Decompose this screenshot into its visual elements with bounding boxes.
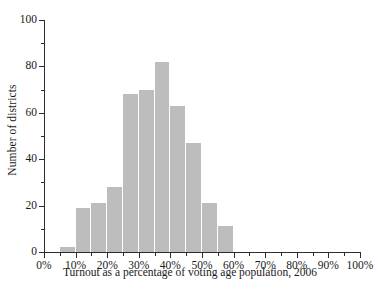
x-tick-minor <box>344 252 345 256</box>
y-tick-minor <box>41 90 45 91</box>
x-tick-major <box>360 252 361 258</box>
histogram-bar <box>202 203 218 252</box>
histogram-bar <box>123 94 139 252</box>
histogram-bar <box>91 203 107 252</box>
histogram-bar <box>139 90 155 252</box>
y-tick-major <box>39 20 45 21</box>
histogram-figure: Number of districts 020406080100 0%10%20… <box>0 0 380 290</box>
y-tick-label: 20 <box>26 200 38 212</box>
x-tick-minor <box>218 252 219 256</box>
x-tick-major <box>107 252 108 258</box>
histogram-bar <box>107 187 123 252</box>
x-tick-major <box>234 252 235 258</box>
y-tick-minor <box>41 182 45 183</box>
x-tick-minor <box>281 252 282 256</box>
x-tick-minor <box>186 252 187 256</box>
histogram-bar <box>76 208 92 252</box>
y-tick-label: 60 <box>26 107 38 119</box>
histogram-bar <box>218 226 234 252</box>
histogram-bar <box>186 143 202 252</box>
x-tick-major <box>297 252 298 258</box>
y-tick-major <box>39 159 45 160</box>
x-tick-major <box>328 252 329 258</box>
x-tick-minor <box>249 252 250 256</box>
plot-area: 020406080100 0%10%20%30%40%50%60%70%80%9… <box>44 20 360 252</box>
y-tick-minor <box>41 229 45 230</box>
x-tick-major <box>76 252 77 258</box>
y-tick-label: 100 <box>20 14 37 26</box>
y-tick-minor <box>41 43 45 44</box>
x-tick-major <box>265 252 266 258</box>
x-tick-minor <box>155 252 156 256</box>
y-tick-label: 40 <box>26 153 38 165</box>
x-tick-minor <box>91 252 92 256</box>
y-tick-major <box>39 66 45 67</box>
x-axis-title: Turnout as a percentage of voting age po… <box>0 266 380 278</box>
y-axis-title: Number of districts <box>0 0 24 260</box>
x-tick-major <box>139 252 140 258</box>
histogram-bar <box>155 62 171 252</box>
y-tick-label: 80 <box>26 60 38 72</box>
y-tick-minor <box>41 136 45 137</box>
y-tick-label: 0 <box>31 246 37 258</box>
x-tick-minor <box>60 252 61 256</box>
histogram-bar <box>60 247 76 252</box>
y-tick-major <box>39 113 45 114</box>
histogram-bar <box>170 106 186 252</box>
x-tick-minor <box>123 252 124 256</box>
y-axis-title-text: Number of districts <box>6 84 18 175</box>
x-tick-major <box>202 252 203 258</box>
x-tick-minor <box>313 252 314 256</box>
x-tick-major <box>170 252 171 258</box>
x-tick-major <box>44 252 45 258</box>
y-tick-major <box>39 206 45 207</box>
